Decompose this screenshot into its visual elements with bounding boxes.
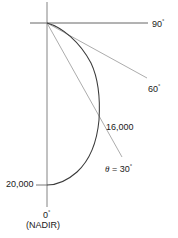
theta-angle-label: θ = 30° bbox=[105, 163, 132, 174]
figure-canvas: 90° 60° 16,000 θ = 30° 20,000 0° (NADIR) bbox=[0, 0, 178, 238]
ray-label-60: 60° bbox=[148, 83, 160, 94]
axis-label-0: 0° bbox=[43, 209, 50, 220]
axis-label-90: 90° bbox=[152, 18, 164, 29]
range-label-20000: 20,000 bbox=[6, 180, 34, 189]
polar-beam-plot bbox=[0, 0, 178, 238]
range-label-16000: 16,000 bbox=[106, 123, 134, 132]
ray-30-line bbox=[47, 23, 122, 157]
nadir-label: (NADIR) bbox=[26, 221, 60, 230]
